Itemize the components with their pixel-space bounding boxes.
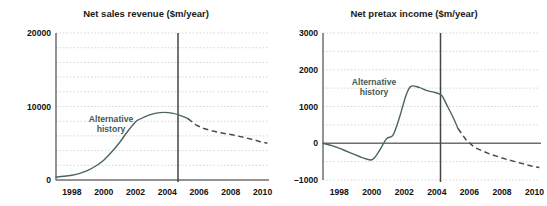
y-tick-label: –1000 (294, 175, 318, 185)
chart-panel-net-sales-revenue: Net sales revenue ($m/year) 01000020000 … (0, 0, 274, 206)
y-tick-label: 20000 (27, 28, 51, 38)
y-tick-labels-group: –10000100020003000 (294, 28, 318, 185)
gridlines-group (56, 33, 268, 165)
x-tick-labels-group: 1998200020022004200620082010 (329, 187, 544, 197)
x-tick-label: 2010 (253, 187, 272, 197)
y-tick-label: 0 (313, 138, 318, 148)
y-tick-label: 10000 (27, 102, 51, 112)
x-tick-label: 2004 (427, 187, 446, 197)
y-tick-label: 0 (46, 175, 51, 185)
chart-title: Net pretax income ($m/year) (350, 8, 477, 19)
x-tick-label: 2000 (94, 187, 113, 197)
x-tick-label: 2002 (126, 187, 145, 197)
x-tick-label: 2006 (459, 187, 478, 197)
x-tick-label: 2004 (158, 187, 177, 197)
x-tick-label: 2002 (394, 187, 413, 197)
series-alternative-history-projected (188, 119, 267, 144)
chart-panel-net-pretax-income: Net pretax income ($m/year) –10000100020… (274, 0, 547, 206)
annotation-alternative-history-line1: Alternative (89, 114, 134, 124)
series-alternative-history-actual (323, 86, 458, 160)
gridlines-group (323, 33, 540, 180)
x-tick-label: 2008 (221, 187, 240, 197)
x-tick-labels-group: 1998200020022004200620082010 (62, 187, 272, 197)
net-pretax-income-svg: Net pretax income ($m/year) –10000100020… (274, 0, 547, 206)
x-tick-label: 2006 (189, 187, 208, 197)
y-tick-labels-group: 01000020000 (27, 28, 51, 185)
x-tick-label: 2010 (524, 187, 543, 197)
annotation-alternative-history-line2: history (97, 124, 126, 134)
annotation-alternative-history-line2: history (359, 87, 388, 97)
chart-title: Net sales revenue ($m/year) (83, 8, 209, 19)
x-tick-label: 1998 (62, 187, 81, 197)
net-sales-revenue-svg: Net sales revenue ($m/year) 01000020000 … (0, 0, 274, 206)
dual-chart-figure: Net sales revenue ($m/year) 01000020000 … (0, 0, 547, 206)
x-tick-label: 2000 (362, 187, 381, 197)
annotation-alternative-history-line1: Alternative (351, 77, 396, 87)
x-tick-label: 1998 (329, 187, 348, 197)
y-tick-label: 2000 (298, 65, 317, 75)
y-tick-label: 1000 (298, 102, 317, 112)
x-tick-label: 2008 (492, 187, 511, 197)
y-tick-label: 3000 (298, 28, 317, 38)
